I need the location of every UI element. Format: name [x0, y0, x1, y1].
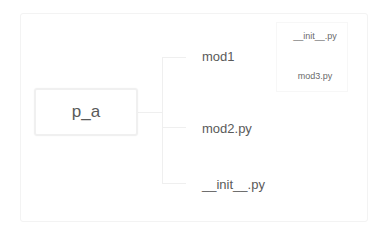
node-mod2[interactable]: mod2.py	[199, 118, 279, 138]
node-mod1[interactable]: mod1	[199, 46, 269, 66]
connector-root	[138, 112, 162, 113]
connector-trunk	[162, 57, 163, 184]
node-mod1-init-label: __init__.py	[293, 31, 337, 41]
connector-mod1	[162, 57, 186, 58]
connector-mod2	[162, 127, 186, 128]
root-node[interactable]: p_a	[34, 88, 138, 136]
root-node-label: p_a	[72, 102, 100, 122]
node-mod2-label: mod2.py	[202, 121, 252, 136]
node-init[interactable]: __init__.py	[199, 174, 279, 194]
node-mod1-init[interactable]: __init__.py	[286, 29, 344, 43]
node-mod3-label: mod3.py	[298, 71, 333, 81]
connector-init	[162, 183, 186, 184]
node-init-label: __init__.py	[202, 177, 265, 192]
node-mod1-label: mod1	[202, 49, 235, 64]
node-mod3[interactable]: mod3.py	[286, 69, 344, 83]
